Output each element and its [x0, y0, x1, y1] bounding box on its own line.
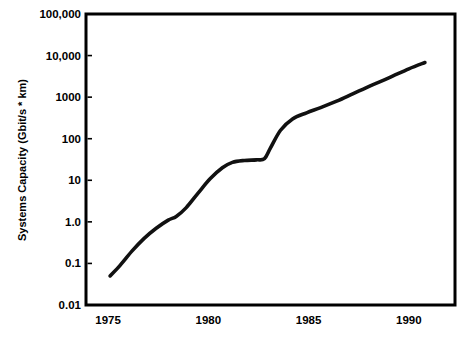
y-tick-label: 0.01: [59, 299, 82, 311]
capacity-log-line-chart: Systems Capacity (Gbit/s * km) 0.010.11.…: [0, 0, 469, 343]
y-tick-label: 1000: [55, 91, 81, 103]
y-tick-label: 10,000: [46, 50, 81, 62]
y-axis-title: Systems Capacity (Gbit/s * km): [16, 79, 28, 241]
x-tick-label: 1985: [296, 314, 322, 326]
x-tick-label: 1975: [95, 314, 121, 326]
x-tick-label: 1990: [396, 314, 422, 326]
y-tick-label: 0.1: [65, 257, 82, 269]
y-tick-label: 100: [62, 133, 81, 145]
x-tick-label: 1980: [196, 314, 222, 326]
chart-figure: Systems Capacity (Gbit/s * km) 0.010.11.…: [0, 0, 469, 343]
y-axis-tick-labels: 0.010.11.010100100010,000100,000: [39, 8, 81, 311]
y-tick-label: 100,000: [39, 8, 81, 20]
plot-area-frame: [86, 14, 455, 305]
y-tick-label: 10: [68, 174, 81, 186]
x-axis-tick-labels: 1975198019851990: [95, 314, 421, 326]
y-tick-label: 1.0: [65, 216, 81, 228]
